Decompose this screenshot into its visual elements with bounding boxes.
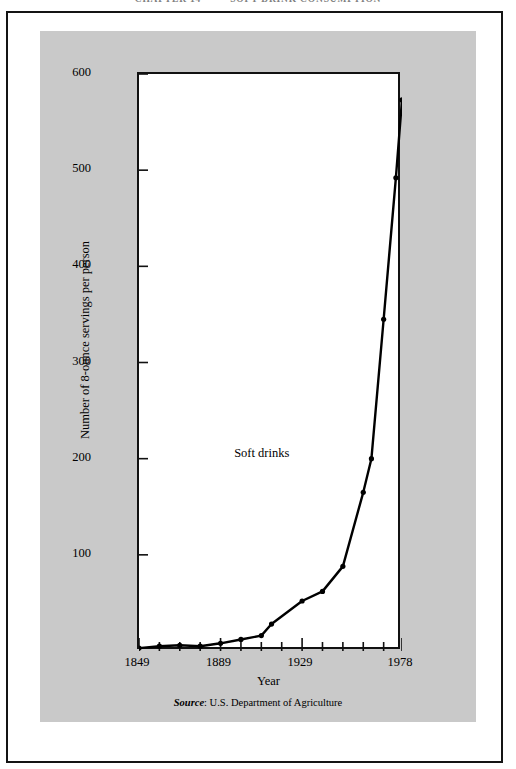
x-axis-tick-labels: 1849188919291978 — [0, 655, 516, 673]
data-point-1859 — [157, 644, 162, 649]
series-line-soft-drinks — [139, 100, 402, 648]
x-tick-label-1889: 1889 — [189, 655, 249, 669]
y-axis-ticks — [139, 74, 148, 555]
data-point-1975 — [393, 175, 398, 180]
data-point-1909 — [259, 633, 264, 638]
x-tick-label-1929: 1929 — [270, 655, 330, 669]
y-tick-label-100: 100 — [57, 547, 91, 560]
data-point-1939 — [320, 589, 325, 594]
x-axis-title: Year — [137, 674, 400, 689]
y-tick-label-500: 500 — [57, 162, 91, 175]
running-head-folio: CHAPTER 14 — [135, 0, 201, 3]
source-separator: : — [204, 697, 207, 708]
line-chart-canvas — [139, 74, 402, 651]
data-point-1929 — [300, 598, 305, 603]
data-point-1978 — [399, 97, 402, 102]
data-point-1963 — [369, 456, 374, 461]
data-point-1959 — [361, 490, 366, 495]
running-head: CHAPTER 14 SOFT DRINK CONSUMPTION — [0, 0, 516, 3]
source-label: Source — [174, 697, 204, 708]
x-tick-label-1978: 1978 — [370, 655, 430, 669]
series-annotation-soft-drinks: Soft drinks — [234, 446, 289, 461]
data-point-1869 — [177, 643, 182, 648]
data-point-1889 — [218, 641, 223, 646]
data-point-1879 — [198, 644, 203, 649]
running-head-title: SOFT DRINK CONSUMPTION — [230, 0, 381, 3]
data-point-1849 — [139, 646, 142, 651]
source-value: U.S. Department of Agriculture — [210, 697, 343, 708]
data-point-1914 — [269, 621, 274, 626]
y-tick-label-600: 600 — [57, 66, 91, 79]
series-markers — [139, 97, 402, 650]
plot-area: Soft drinks — [137, 72, 400, 649]
source-note: Source: U.S. Department of Agriculture — [40, 697, 476, 708]
data-point-1969 — [381, 317, 386, 322]
data-point-1949 — [340, 564, 345, 569]
figure-panel: Soft drinks — [40, 31, 476, 722]
y-axis-title: Number of 8-ounce servings per person — [78, 190, 96, 490]
data-point-1899 — [238, 637, 243, 642]
x-tick-label-1849: 1849 — [107, 655, 167, 669]
